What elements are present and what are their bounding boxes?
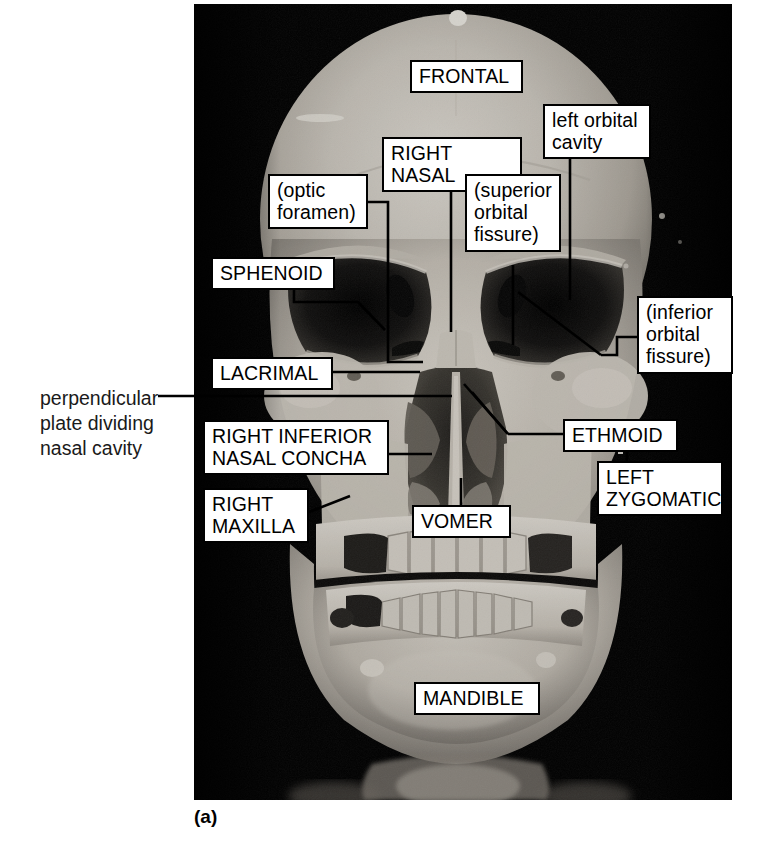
label-lacrimal-text: LACRIMAL: [220, 362, 325, 384]
label-superior-orbital-fissure-text: (superior orbital fissure): [474, 179, 553, 246]
label-left-zygomatic: LEFT ZYGOMATIC: [597, 461, 723, 516]
label-optic-foramen-text: (optic foramen): [277, 179, 360, 223]
label-perpendicular-plate-text: perpendicular plate dividing nasal cavit…: [40, 387, 158, 459]
label-inferior-orbital-fissure-text: (inferior orbital fissure): [646, 301, 725, 368]
label-vomer: VOMER: [412, 505, 511, 538]
label-right-inferior-nasal-concha: RIGHT INFERIOR NASAL CONCHA: [203, 420, 389, 475]
label-optic-foramen: (optic foramen): [268, 174, 368, 229]
label-left-zygomatic-text: LEFT ZYGOMATIC: [606, 466, 715, 510]
label-mandible: MANDIBLE: [414, 682, 540, 715]
label-left-orbital-cavity-text: left orbital cavity: [552, 109, 643, 153]
label-superior-orbital-fissure: (superior orbital fissure): [465, 174, 561, 252]
label-frontal-text: FRONTAL: [419, 65, 515, 87]
label-right-maxilla: RIGHT MAXILLA: [203, 488, 309, 543]
skull-photo-svg: [194, 4, 732, 800]
anatomy-figure: FRONTALRIGHT NASALleft orbital cavity(op…: [0, 0, 767, 842]
label-lacrimal: LACRIMAL: [211, 357, 333, 390]
figure-caption: (a): [194, 806, 217, 828]
label-vomer-text: VOMER: [421, 510, 503, 532]
label-frontal: FRONTAL: [410, 60, 523, 93]
label-sphenoid-text: SPHENOID: [220, 262, 327, 284]
label-mandible-text: MANDIBLE: [423, 687, 532, 709]
label-inferior-orbital-fissure: (inferior orbital fissure): [637, 296, 733, 374]
label-right-inferior-nasal-concha-text: RIGHT INFERIOR NASAL CONCHA: [212, 425, 381, 469]
label-ethmoid-text: ETHMOID: [572, 424, 670, 446]
label-sphenoid: SPHENOID: [211, 257, 335, 290]
label-right-maxilla-text: RIGHT MAXILLA: [212, 493, 301, 537]
skull-photograph: [194, 4, 732, 800]
label-left-orbital-cavity: left orbital cavity: [543, 104, 651, 159]
label-ethmoid: ETHMOID: [563, 419, 678, 452]
label-perpendicular-plate: perpendicular plate dividing nasal cavit…: [40, 386, 158, 461]
